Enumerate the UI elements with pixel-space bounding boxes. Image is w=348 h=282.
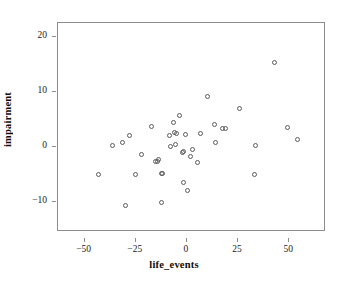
data-point (195, 160, 200, 165)
x-tick-label: −50 (64, 244, 104, 255)
data-point (212, 122, 217, 127)
x-axis-label: life_events (0, 259, 348, 270)
data-point (183, 132, 188, 137)
x-tick-label: 25 (217, 244, 257, 255)
x-tick-label: −25 (115, 244, 155, 255)
data-point (185, 188, 190, 193)
data-point (149, 124, 154, 129)
scatter-plot-figure: impairment −50−2502550 −1001020 life_eve… (0, 0, 348, 282)
x-tick-mark (237, 238, 238, 242)
data-point (123, 203, 128, 208)
data-point (174, 131, 179, 136)
data-point (188, 154, 193, 159)
y-tick-label: 0 (13, 140, 47, 151)
data-point (213, 140, 218, 145)
data-point (181, 149, 186, 154)
data-point (171, 120, 176, 125)
data-point (252, 172, 257, 177)
y-axis-label: impairment (2, 92, 16, 147)
data-point (120, 140, 125, 145)
y-tick-label: 20 (13, 30, 47, 41)
y-tick-mark (52, 36, 56, 37)
y-tick-mark (52, 201, 56, 202)
x-tick-mark (84, 238, 85, 242)
y-tick-mark (52, 146, 56, 147)
x-tick-label: 50 (268, 244, 308, 255)
y-tick-label: 10 (13, 85, 47, 96)
data-point (181, 180, 186, 185)
x-tick-label: 0 (166, 244, 206, 255)
data-point (237, 106, 242, 111)
x-tick-mark (135, 238, 136, 242)
data-point (198, 131, 203, 136)
data-point (223, 126, 228, 131)
data-point (160, 171, 165, 176)
data-point (173, 142, 178, 147)
data-point (156, 157, 161, 162)
y-tick-mark (52, 91, 56, 92)
data-point (253, 143, 258, 148)
x-tick-mark (288, 238, 289, 242)
data-point (190, 147, 195, 152)
y-tick-label: −10 (13, 195, 47, 206)
data-point (272, 60, 277, 65)
data-point (295, 137, 300, 142)
data-point (159, 200, 164, 205)
x-tick-mark (186, 238, 187, 242)
data-point (205, 94, 210, 99)
data-point (285, 125, 290, 130)
plot-data-area (58, 23, 324, 230)
data-point (110, 143, 115, 148)
data-point (133, 172, 138, 177)
data-point (96, 172, 101, 177)
data-point (139, 152, 144, 157)
data-point (177, 113, 182, 118)
data-point (127, 133, 132, 138)
plot-frame (57, 22, 325, 231)
